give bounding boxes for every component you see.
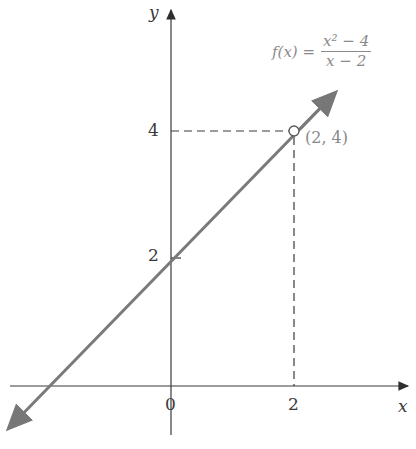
y-tick-label-2: 2 <box>148 245 159 265</box>
function-label: f(x) = x² − 4 x − 2 <box>272 32 371 71</box>
function-name: f(x) = <box>272 43 315 61</box>
hole-label: (2, 4) <box>305 128 348 147</box>
x-tick-label-0: 0 <box>165 394 176 414</box>
function-numerator: x² − 4 <box>321 32 371 52</box>
x-axis-label: x <box>398 396 408 416</box>
open-circle-hole <box>289 126 299 136</box>
function-denominator: x − 2 <box>326 52 366 71</box>
y-axis-label: y <box>149 2 159 22</box>
function-line <box>10 94 334 427</box>
x-tick-label-2: 2 <box>288 394 299 414</box>
function-line-arrow-up <box>300 94 334 129</box>
y-tick-label-4: 4 <box>148 120 159 140</box>
